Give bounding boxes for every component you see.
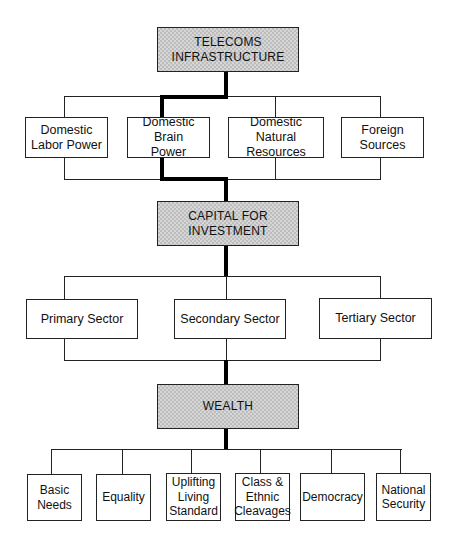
connector-line <box>400 449 401 474</box>
bus-line <box>51 449 402 450</box>
connector-line <box>331 449 332 474</box>
telecoms-infrastructure-label: TELECOMS INFRASTRUCTURE <box>172 35 285 65</box>
domestic-brain-power-box: Domestic Brain Power <box>127 117 210 158</box>
wealth-box: WEALTH <box>157 384 299 429</box>
democracy-label: Democracy <box>302 490 363 505</box>
connector-line <box>380 157 381 179</box>
basic-needs-box: Basic Needs <box>27 474 82 521</box>
connector-line <box>260 449 261 474</box>
telecoms-infrastructure-box: TELECOMS INFRASTRUCTURE <box>157 27 299 72</box>
domestic-labor-power-label: Domestic Labor Power <box>31 123 102 153</box>
national-security-label: National Security <box>381 483 425 512</box>
uplifting-living-standard-box: Uplifting Living Standard <box>166 473 221 521</box>
connector-line <box>64 276 65 299</box>
primary-sector-label: Primary Sector <box>41 312 124 327</box>
highlight-line <box>224 177 228 201</box>
equality-box: Equality <box>96 474 151 521</box>
highlight-line <box>160 95 164 117</box>
primary-sector-box: Primary Sector <box>26 299 138 339</box>
uplifting-living-standard-label: Uplifting Living Standard <box>169 475 218 519</box>
connector-line <box>51 449 52 474</box>
highlight-line <box>160 177 228 181</box>
secondary-sector-label: Secondary Sector <box>180 312 279 327</box>
connector-line <box>275 96 276 117</box>
connector-line <box>380 338 381 360</box>
highlight-line <box>224 360 228 384</box>
connector-line <box>380 276 381 299</box>
bus-line <box>64 360 381 361</box>
highlight-line <box>224 245 228 277</box>
bus-line <box>64 276 381 277</box>
capital-for-investment-label: CAPITAL FOR INVESTMENT <box>188 209 268 239</box>
equality-label: Equality <box>102 490 145 505</box>
wealth-label: WEALTH <box>203 399 253 414</box>
basic-needs-label: Basic Needs <box>37 483 72 512</box>
tertiary-sector-box: Tertiary Sector <box>319 298 432 339</box>
domestic-natural-resources-box: Domestic Natural Resources <box>228 117 324 158</box>
class-ethnic-cleavages-label: Class & Ethnic Cleavages <box>234 475 291 519</box>
connector-line <box>64 96 65 117</box>
national-security-box: National Security <box>376 473 431 521</box>
tertiary-sector-label: Tertiary Sector <box>335 311 416 326</box>
connector-line <box>226 276 227 299</box>
highlight-line <box>224 428 228 450</box>
foreign-sources-label: Foreign Sources <box>360 123 406 153</box>
capital-for-investment-box: CAPITAL FOR INVESTMENT <box>157 201 299 246</box>
connector-line <box>64 338 65 360</box>
domestic-brain-power-label: Domestic Brain Power <box>128 115 209 160</box>
connector-line <box>191 449 192 474</box>
secondary-sector-box: Secondary Sector <box>174 299 286 339</box>
connector-line <box>226 338 227 360</box>
connector-line <box>380 96 381 117</box>
foreign-sources-box: Foreign Sources <box>341 117 424 158</box>
class-ethnic-cleavages-box: Class & Ethnic Cleavages <box>235 473 290 521</box>
democracy-box: Democracy <box>300 473 365 521</box>
domestic-labor-power-box: Domestic Labor Power <box>25 117 108 158</box>
connector-line <box>122 449 123 474</box>
connector-line <box>275 157 276 179</box>
domestic-natural-resources-label: Domestic Natural Resources <box>229 115 323 160</box>
connector-line <box>64 157 65 179</box>
highlight-line <box>160 95 228 99</box>
